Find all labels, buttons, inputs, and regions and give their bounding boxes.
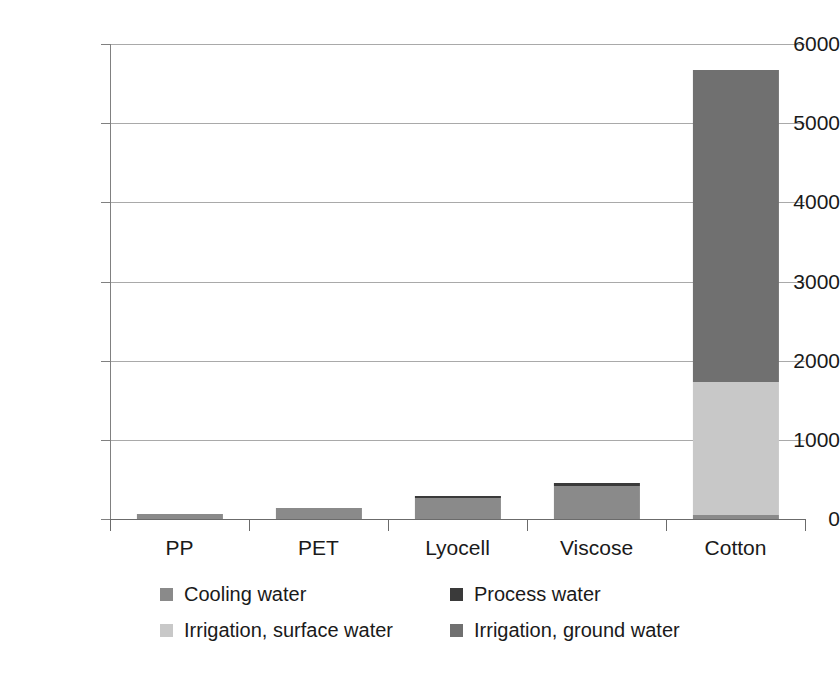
bars-layer (110, 44, 805, 519)
x-axis-tick-label: Viscose (527, 536, 666, 560)
legend-label: Process water (474, 583, 601, 605)
bar-stack[interactable] (553, 483, 639, 519)
legend-item[interactable]: Irrigation, surface water (160, 619, 450, 641)
y-axis-tick-label: 5000 (752, 112, 840, 133)
x-axis-tick-label: PP (110, 536, 249, 560)
legend-label: Irrigation, surface water (184, 619, 393, 641)
legend-swatch-icon (160, 624, 173, 637)
x-axis-tick-label: PET (249, 536, 388, 560)
x-axis-tick-mark (249, 519, 250, 531)
legend-item[interactable]: Irrigation, ground water (450, 619, 720, 641)
bar-stack[interactable] (414, 496, 500, 519)
legend-label: Cooling water (184, 583, 306, 605)
y-axis-tick-mark (101, 440, 110, 441)
bar-group[interactable] (110, 44, 249, 519)
y-axis-tick-mark (101, 361, 110, 362)
bar-group[interactable] (249, 44, 388, 519)
y-axis-tick-label: 6000 (752, 33, 840, 54)
legend-item[interactable]: Cooling water (160, 583, 450, 605)
y-axis-tick-mark (101, 519, 110, 520)
x-axis-tick-mark (527, 519, 528, 531)
stacked-bar-chart: PPPETLyocellViscoseCotton Cooling waterP… (0, 0, 840, 676)
bar-stack[interactable] (275, 508, 361, 519)
bar-group[interactable] (388, 44, 527, 519)
y-axis-tick-label: 4000 (752, 191, 840, 212)
y-axis-tick-label: 3000 (752, 271, 840, 292)
bar-segment[interactable] (275, 508, 361, 519)
bar-segment[interactable] (414, 498, 500, 519)
legend-label: Irrigation, ground water (474, 619, 680, 641)
x-axis-spine (110, 519, 806, 520)
x-axis-tick-mark (666, 519, 667, 531)
x-axis-tick-label: Cotton (666, 536, 805, 560)
legend-swatch-icon (450, 588, 463, 601)
y-axis-tick-mark (101, 123, 110, 124)
x-axis-tick-mark (388, 519, 389, 531)
bar-segment[interactable] (553, 486, 639, 519)
y-axis-tick-label: 2000 (752, 350, 840, 371)
legend-swatch-icon (160, 588, 173, 601)
bar-stack[interactable] (136, 514, 222, 519)
x-axis-tick-label: Lyocell (388, 536, 527, 560)
legend-swatch-icon (450, 624, 463, 637)
chart-legend: Cooling waterProcess waterIrrigation, su… (160, 583, 720, 641)
bar-group[interactable] (527, 44, 666, 519)
legend-item[interactable]: Process water (450, 583, 720, 605)
y-axis-tick-mark (101, 282, 110, 283)
y-axis-tick-mark (101, 44, 110, 45)
y-axis-tick-label: 1000 (752, 429, 840, 450)
x-axis-tick-mark (110, 519, 111, 531)
bar-segment[interactable] (136, 514, 222, 519)
bar-stack[interactable] (692, 70, 778, 519)
y-axis-tick-mark (101, 202, 110, 203)
y-axis-tick-label: 0 (752, 508, 840, 529)
